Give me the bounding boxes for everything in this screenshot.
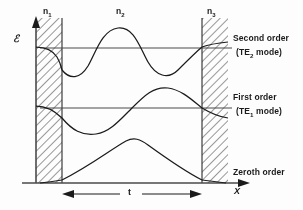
mode-label-first-order-mode: (TE1 mode) xyxy=(236,106,282,118)
mode-label-zeroth-order-title: Zeroth order xyxy=(233,167,285,177)
thickness-arrowhead-left xyxy=(62,190,74,198)
mode-label-second-order-title: Second order xyxy=(233,33,289,43)
thickness-label: t xyxy=(128,187,131,197)
cladding-region-n1 xyxy=(36,18,62,183)
region-label-n2: n2 xyxy=(116,6,125,18)
figure-canvas xyxy=(0,0,303,210)
region-label-n3: n3 xyxy=(207,6,216,18)
x-axis-label: X xyxy=(234,186,240,196)
field-curve-first-order xyxy=(62,88,202,135)
region-label-n1: n1 xyxy=(43,6,52,18)
mode-label-first-order-title: First order xyxy=(233,92,277,102)
thickness-arrowhead-right xyxy=(190,190,202,198)
field-curve-second-order xyxy=(62,28,202,77)
waveguide-mode-figure: n1 n2 n3 ℰ X t Second order (TE2 mode) F… xyxy=(0,0,303,210)
field-curve-zeroth-order xyxy=(62,139,202,180)
mode-label-second-order-mode: (TE2 mode) xyxy=(236,47,282,59)
y-axis-label: ℰ xyxy=(13,33,19,44)
